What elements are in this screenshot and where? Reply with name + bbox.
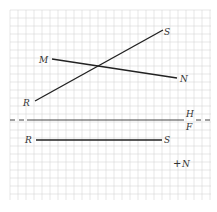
label-s-top: S	[164, 27, 170, 37]
label-n-front: N	[181, 159, 191, 169]
label-n-top: N	[179, 74, 189, 84]
label-h: H	[185, 109, 194, 119]
point-n-marker: +	[173, 158, 181, 169]
label-r-top: R	[22, 98, 30, 108]
label-s-front: S	[164, 135, 170, 145]
label-m-top: M	[38, 55, 49, 65]
label-f: F	[185, 122, 193, 132]
line-mn-top	[52, 59, 177, 78]
label-r-front: R	[24, 135, 32, 145]
grid	[10, 10, 211, 200]
projection-diagram: R S M N H F R S + N	[0, 0, 217, 212]
